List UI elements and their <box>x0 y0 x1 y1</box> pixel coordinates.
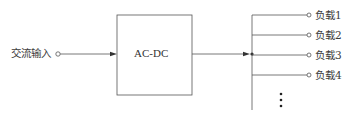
input-label: 交流输入 <box>11 47 51 59</box>
converter-label: AC-DC <box>134 47 168 59</box>
load-label-2: 负载2 <box>315 29 342 41</box>
ellipsis-dot <box>280 93 283 96</box>
load-terminal-icon <box>307 73 311 77</box>
ellipsis-dot <box>280 99 283 102</box>
load-terminal-icon <box>307 33 311 37</box>
load-terminal-icon <box>307 13 311 17</box>
arrow-icon <box>110 52 117 56</box>
load-label-3: 负载3 <box>315 49 342 61</box>
ellipsis-dot <box>280 105 283 108</box>
load-label-1: 负载1 <box>315 9 342 21</box>
diagram-canvas <box>0 0 350 120</box>
input-terminal-icon <box>56 52 60 56</box>
load-label-4: 负载4 <box>315 69 342 81</box>
load-terminal-icon <box>307 53 311 57</box>
arrow-icon <box>243 52 250 56</box>
